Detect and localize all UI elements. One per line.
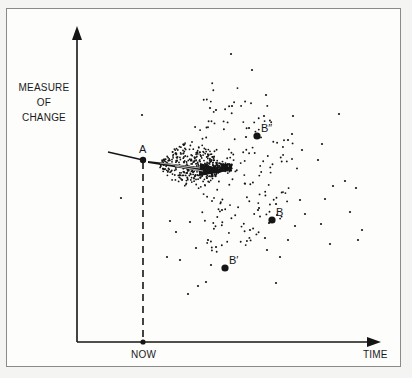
scatter-dot bbox=[249, 229, 251, 231]
scatter-dot bbox=[208, 120, 210, 122]
scatter-dot bbox=[211, 153, 213, 155]
scatter-dot bbox=[234, 138, 236, 140]
scatter-dot bbox=[203, 193, 205, 195]
scatter-dot bbox=[198, 146, 200, 148]
y-axis-arrow-icon bbox=[72, 26, 82, 40]
point-label-B: B bbox=[276, 206, 283, 218]
scatter-dot bbox=[207, 181, 209, 183]
scatter-dot bbox=[191, 141, 193, 143]
scatter-dot bbox=[209, 107, 211, 109]
scatter-dot bbox=[171, 159, 173, 161]
scatter-dot bbox=[195, 247, 197, 249]
scatter-dot bbox=[248, 152, 250, 154]
scatter-dot bbox=[200, 186, 202, 188]
point-B bbox=[268, 216, 275, 223]
scatter-dot bbox=[222, 165, 224, 167]
scatter-dot bbox=[240, 162, 242, 164]
scatter-dot bbox=[212, 89, 214, 91]
scatter-dot bbox=[266, 105, 268, 107]
scatter-dot bbox=[272, 163, 274, 165]
scatter-dot bbox=[194, 126, 196, 128]
scatter-dot bbox=[215, 225, 217, 227]
scatter-dot bbox=[201, 157, 203, 159]
scatter-dot bbox=[241, 226, 243, 228]
scatter-dot bbox=[249, 183, 251, 185]
scatter-dot bbox=[264, 191, 266, 193]
scatter-dot bbox=[214, 150, 216, 152]
scatter-dot bbox=[228, 184, 230, 186]
scatter-dot bbox=[202, 138, 204, 140]
scatter-dot bbox=[228, 232, 230, 234]
scatter-dot bbox=[212, 178, 214, 180]
scatter-dot bbox=[189, 221, 191, 223]
x-axis-arrow-icon bbox=[367, 337, 381, 347]
scatter-dot bbox=[222, 161, 224, 163]
scatter-dot bbox=[215, 246, 217, 248]
now-label: NOW bbox=[131, 349, 156, 360]
scatter-dot bbox=[291, 133, 293, 135]
scatter-dot bbox=[174, 153, 176, 155]
scatter-dot bbox=[275, 203, 277, 205]
scatter-dot bbox=[272, 141, 274, 143]
scatter-dot bbox=[224, 164, 226, 166]
scatter-dot bbox=[166, 256, 168, 258]
scatter-dot bbox=[207, 149, 209, 151]
scatter-dot bbox=[276, 142, 278, 144]
scatter-dot bbox=[223, 128, 225, 130]
scatter-dot bbox=[180, 159, 182, 161]
scatter-dot bbox=[320, 223, 322, 225]
scatter-dot bbox=[178, 162, 180, 164]
scatter-dot bbox=[203, 160, 205, 162]
scatter-dot bbox=[216, 189, 218, 191]
scatter-dot bbox=[273, 199, 275, 201]
scatter-dot bbox=[245, 244, 247, 246]
scatter-dot bbox=[179, 174, 181, 176]
scatter-dot bbox=[282, 191, 284, 193]
scatter-dot bbox=[258, 207, 260, 209]
scatter-dot bbox=[174, 169, 176, 171]
scatter-dot bbox=[174, 174, 176, 176]
scatter-dot bbox=[202, 151, 204, 153]
scatter-dot bbox=[210, 180, 212, 182]
scatter-dot bbox=[286, 160, 288, 162]
scatter-dot bbox=[179, 156, 181, 158]
scatter-dot bbox=[196, 156, 198, 158]
scatter-dot bbox=[205, 137, 207, 139]
scatter-dot bbox=[166, 169, 168, 171]
scatter-dot bbox=[210, 264, 212, 266]
scatter-dot bbox=[171, 161, 173, 163]
scatter-dot bbox=[162, 168, 164, 170]
scatter-dot bbox=[203, 148, 205, 150]
scatter-dot bbox=[188, 170, 190, 172]
scatter-dot bbox=[242, 151, 244, 153]
scatter-dot bbox=[187, 179, 189, 181]
scatter-dot bbox=[211, 120, 213, 122]
scatter-dot bbox=[224, 108, 226, 110]
scatter-dot bbox=[160, 165, 162, 167]
scatter-dot bbox=[207, 156, 209, 158]
scatter-dot bbox=[212, 162, 214, 164]
scatter-dot bbox=[221, 199, 223, 201]
scatter-dot bbox=[209, 150, 211, 152]
scatter-dot bbox=[246, 127, 248, 129]
scatter-dot bbox=[292, 142, 294, 144]
scatter-dot bbox=[199, 129, 201, 131]
scatter-dot bbox=[357, 239, 359, 241]
scatter-dot bbox=[288, 187, 290, 189]
scatter-dot bbox=[232, 178, 234, 180]
scatter-dot bbox=[213, 156, 215, 158]
scatter-dot bbox=[180, 152, 182, 154]
scatter-dot bbox=[287, 139, 289, 141]
scatter-dot bbox=[205, 151, 207, 153]
scatter-dot bbox=[214, 122, 216, 124]
scatter-dot bbox=[265, 213, 267, 215]
scatter-dot bbox=[167, 174, 169, 176]
scatter-dot bbox=[215, 175, 217, 177]
scatter-dot bbox=[221, 224, 223, 226]
scatter-dot bbox=[211, 249, 213, 251]
scatter-dot bbox=[207, 239, 209, 241]
scatter-dot bbox=[253, 213, 255, 215]
scatter-dot bbox=[184, 142, 186, 144]
scatter-dot bbox=[198, 165, 200, 167]
scatter-dot bbox=[344, 180, 346, 182]
